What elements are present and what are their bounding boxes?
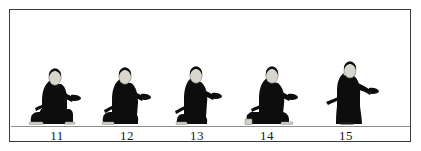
silhouette-body-15 (326, 62, 379, 125)
silhouette-body-14 (245, 67, 298, 125)
panel-label-13: 13 (161, 128, 233, 143)
silhouette-body-11 (29, 69, 81, 125)
panel-label-15: 15 (310, 128, 382, 143)
silhouette-art-12 (91, 62, 163, 127)
figure-silhouette-11 (21, 62, 93, 127)
silhouette-body-12 (102, 68, 151, 125)
silhouette-art-14 (231, 62, 303, 127)
panel-label-14: 14 (231, 128, 303, 143)
silhouette-body-13 (175, 67, 222, 125)
figure-panel-sequence: 11 12 (0, 0, 421, 151)
figure-silhouette-14 (231, 62, 303, 127)
panel-label-11: 11 (21, 128, 93, 143)
silhouette-art-11 (21, 62, 93, 127)
silhouette-art-15 (310, 62, 382, 127)
figure-silhouette-13 (161, 62, 233, 127)
silhouette-art-13 (161, 62, 233, 127)
panel-label-12: 12 (91, 128, 163, 143)
figure-silhouette-12 (91, 62, 163, 127)
figure-silhouette-15 (310, 62, 382, 127)
